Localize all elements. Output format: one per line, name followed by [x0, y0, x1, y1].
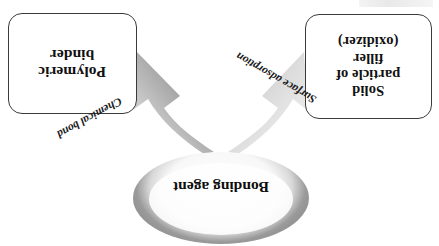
- ellipse-bonding-agent-label: Bonding agent: [133, 178, 309, 196]
- box-text-line: Solid: [336, 83, 400, 99]
- box-text-line: binder: [38, 46, 106, 63]
- chemical-bond-arrow: [133, 51, 214, 154]
- box-text-line: filler: [336, 50, 400, 66]
- box-text-line: Polymeric: [38, 64, 106, 81]
- box-text-line: particle of: [336, 67, 400, 83]
- box-solid-particle-filler: Solidparticle offiller(oxidizer): [305, 14, 432, 119]
- figure-canvas: Polymericbinder Solidparticle offiller(o…: [0, 0, 439, 246]
- ellipse-bonding-agent: Bonding agent: [133, 152, 309, 244]
- ellipse-inner-face: [149, 163, 293, 235]
- box-polymeric-binder-label: Polymericbinder: [38, 46, 106, 81]
- cropped-page-header-artifact: [359, 0, 433, 7]
- box-text-line: (oxidizer): [336, 34, 400, 50]
- box-solid-particle-filler-label: Solidparticle offiller(oxidizer): [336, 34, 400, 99]
